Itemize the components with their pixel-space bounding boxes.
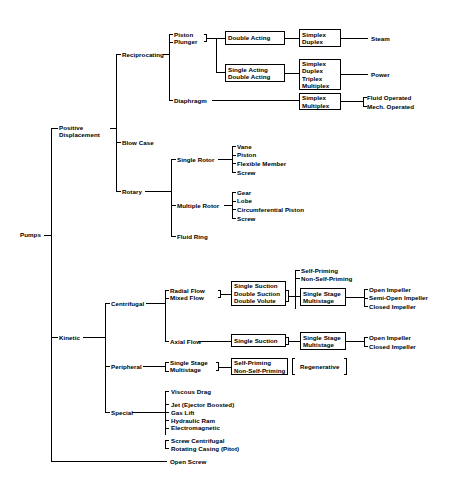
connector-impeller-spine-axial xyxy=(364,337,365,346)
connector-pd-stub xyxy=(51,128,58,129)
tick-mech-operated xyxy=(363,106,367,107)
leaf-piston: Piston xyxy=(237,151,256,158)
leaf-screw-centrifugal: Screw Centrifugal xyxy=(171,437,224,444)
leaf-screw-multiple: Screw xyxy=(237,215,255,222)
connector-special-stub xyxy=(105,412,110,413)
tick-gas-lift xyxy=(165,412,169,413)
node-power: Power xyxy=(371,71,390,78)
connector-diaphragm-to-box xyxy=(212,100,299,101)
connector-steam xyxy=(341,38,368,39)
connector-kinetic-out xyxy=(83,337,105,338)
connector-reciprocating-stub xyxy=(116,54,121,55)
connector-axial-flow-stub xyxy=(165,341,169,342)
node-multiple-rotor: Multiple Rotor xyxy=(177,202,219,209)
connector-open-screw xyxy=(51,461,167,462)
connector-peripheral-stub xyxy=(105,366,110,367)
box-suction-volute-label: Single Suction Double Suction Double Vol… xyxy=(234,282,280,304)
box-simplex-duplex-label: Simplex Duplex xyxy=(302,31,326,46)
connector-power xyxy=(341,74,368,75)
box-simplex-duplex: Simplex Duplex xyxy=(299,29,341,47)
tick-fluid-operated xyxy=(363,97,367,98)
node-radial-mixed-flow: Radial Flow Mixed Flow xyxy=(170,287,205,302)
node-steam: Steam xyxy=(371,35,390,42)
leaf-rotating-casing-pitot: Rotating Casing (Pitot) xyxy=(171,445,239,452)
leaf-circumferential-piston: Circumferential Piston xyxy=(237,206,304,213)
box-single-suction-axial: Single Suction xyxy=(231,334,286,347)
connector-diaphragm-stub xyxy=(169,100,173,101)
connector-blowcase-stub xyxy=(116,142,121,143)
node-mech-operated: Mech. Operated xyxy=(367,103,414,110)
connector-radial-mixed-out xyxy=(221,294,231,295)
connector-da-to-simplex xyxy=(285,38,299,39)
connector-rotary-out xyxy=(145,191,171,192)
node-axial-flow: Axial Flow xyxy=(170,338,201,345)
tick-piston xyxy=(232,155,236,156)
connector-multiple-rotor-leaves xyxy=(224,205,232,206)
connector-plunger-stub xyxy=(169,42,173,43)
tick-rotating-casing xyxy=(165,448,169,449)
connector-multiple-rotor-leafspine xyxy=(232,192,233,218)
leaf-viscous-drag: Viscous Drag xyxy=(171,388,211,395)
tick-multistage-peripheral xyxy=(165,371,169,372)
leaf-self-priming-centrifugal: Self-Priming xyxy=(301,267,338,274)
leaf-screw-single: Screw xyxy=(237,169,255,176)
connector-single-double-acting-in xyxy=(216,72,225,73)
tick-open-impeller-axial xyxy=(364,337,368,338)
node-reciprocating: Reciprocating xyxy=(122,51,164,58)
bracket-regenerative-right xyxy=(344,358,347,375)
tick-viscous-drag xyxy=(165,391,169,392)
connector-stage-to-impellers-radial xyxy=(346,297,364,298)
connector-pumps-stub xyxy=(44,235,51,236)
connector-fluid-ring-stub xyxy=(171,236,176,237)
tick-hydraulic-ram xyxy=(165,420,169,421)
node-special: Special xyxy=(111,409,133,416)
box-stage-axial-label: Single Stage Multistage xyxy=(303,334,341,349)
leaf-open-impeller-radial: Open Impeller xyxy=(369,286,411,293)
box-double-acting: Double Acting xyxy=(225,31,285,45)
connector-peripheral-out xyxy=(143,366,165,367)
connector-suction-branch-spine xyxy=(295,270,296,309)
node-peripheral: Peripheral xyxy=(111,363,142,370)
connector-centrifugal-stub xyxy=(105,303,110,304)
node-open-screw: Open Screw xyxy=(170,458,206,465)
connector-sda-to-simplex xyxy=(285,73,299,74)
leaf-vane: Vane xyxy=(237,143,252,150)
tick-open-impeller-radial xyxy=(364,289,368,290)
connector-pd-spine xyxy=(116,54,117,191)
node-piston-plunger: Piston Plunger xyxy=(174,31,197,46)
box-simplex-multiplex-label: Simplex Multiplex xyxy=(302,94,329,109)
box-single-stage-multistage-radial: Single Stage Multistage xyxy=(300,288,346,306)
connector-root-spine xyxy=(51,128,52,461)
connector-diaphragm-terminals xyxy=(341,101,363,102)
connector-diaphragm-terminal-spine xyxy=(363,97,364,106)
tick-gear xyxy=(232,192,236,193)
bracket-regenerative-left xyxy=(292,358,295,375)
tick-electromagnetic xyxy=(165,428,169,429)
node-fluid-operated: Fluid Operated xyxy=(367,94,411,101)
connector-special-out xyxy=(132,412,165,413)
node-positive-displacement-line1: Positive Displacement xyxy=(59,124,100,138)
connector-kinetic-spine xyxy=(105,303,106,412)
connector-mixed-flow-stub xyxy=(165,298,169,299)
leaf-hydraulic-ram: Hydraulic Ram xyxy=(171,417,215,424)
connector-double-acting-in xyxy=(216,38,225,39)
leaf-gas-lift: Gas Lift xyxy=(171,409,194,416)
tick-circumferential-piston xyxy=(232,209,236,210)
box-single-double-acting: Single Acting Double Acting xyxy=(225,64,285,82)
connector-single-rotor-stub xyxy=(171,159,176,160)
connector-acting-spine xyxy=(216,38,217,72)
tick-screw-multiple xyxy=(232,218,236,219)
connector-stage-to-impellers-axial xyxy=(346,341,364,342)
box-double-acting-label: Double Acting xyxy=(228,34,270,41)
leaf-semi-open-impeller: Semi-Open Impeller xyxy=(369,294,428,301)
leaf-closed-impeller-radial: Closed Impeller xyxy=(369,303,416,310)
node-kinetic: Kinetic xyxy=(59,334,80,341)
connector-non-self-priming-stub xyxy=(295,278,300,279)
leaf-electromagnetic: Electromagnetic xyxy=(171,424,220,431)
node-diaphragm: Diaphragm xyxy=(174,97,207,104)
tick-flexible-member xyxy=(232,163,236,164)
leaf-jet-ejector-boosted: Jet (Ejector Boosted) xyxy=(171,401,234,408)
connector-peripheral-to-priming xyxy=(219,367,231,368)
tick-closed-impeller-axial xyxy=(364,346,368,347)
box-peripheral-priming: Self-Priming Non-Self-Priming xyxy=(231,358,288,375)
